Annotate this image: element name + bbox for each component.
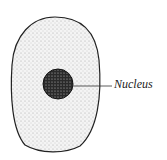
nucleus <box>43 69 73 99</box>
nucleus-label: Nucleus <box>114 77 153 92</box>
